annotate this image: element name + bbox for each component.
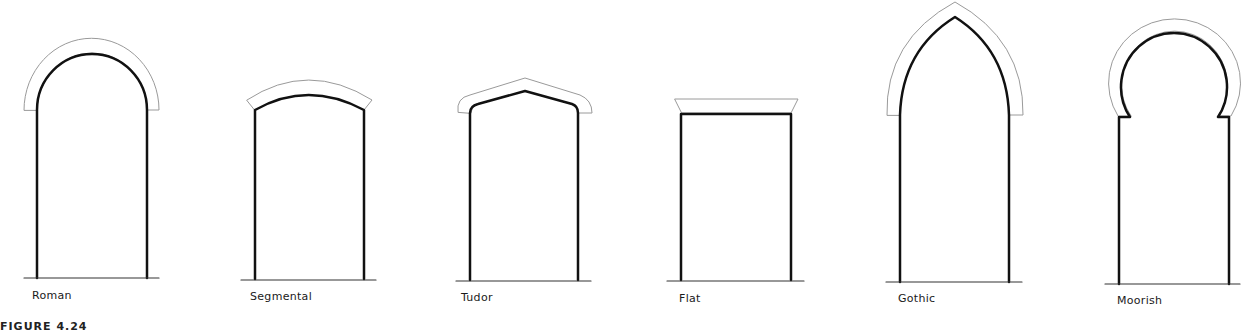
arch-roman	[24, 38, 159, 278]
label-gothic: Gothic	[898, 292, 935, 305]
arch-flat	[667, 99, 804, 281]
label-segmental: Segmental	[250, 290, 312, 303]
arch-segmental	[241, 80, 376, 280]
arch-gothic	[886, 2, 1023, 282]
arch-tudor	[456, 78, 592, 281]
label-flat: Flat	[679, 292, 701, 305]
label-roman: Roman	[32, 289, 72, 302]
label-tudor: Tudor	[461, 291, 493, 304]
label-moorish: Moorish	[1117, 294, 1162, 307]
figure-caption: FIGURE 4.24	[0, 320, 88, 333]
arch-moorish	[1105, 19, 1241, 284]
